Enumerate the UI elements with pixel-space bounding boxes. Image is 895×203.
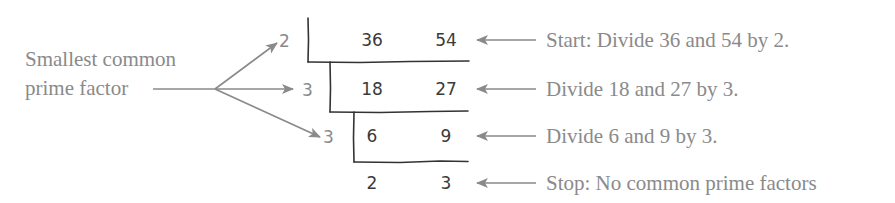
note-arrows [477,40,536,183]
row-2-b: 27 [435,79,457,99]
note-step-2: Divide 18 and 27 by 3. [546,77,738,101]
row-1-b: 54 [435,30,457,50]
smallest-common-prime-factor-label: Smallest common prime factor [25,47,177,100]
divisor-2: 3 [302,80,313,100]
row-4-a: 2 [367,173,378,193]
note-step-3: Divide 6 and 9 by 3. [546,124,717,148]
row-4-b: 3 [441,173,452,193]
row-2-a: 18 [361,79,383,99]
ladder-diagram: Smallest common prime factor 2 3 3 36 54… [0,0,895,203]
divisor-1: 2 [279,31,290,51]
divisor-3: 3 [323,127,334,147]
row-3-a: 6 [367,126,378,146]
step-notes: Start: Divide 36 and 54 by 2. Divide 18 … [546,28,817,195]
left-label-line1: Smallest common [25,47,177,71]
arrow-to-divisor-1-icon [215,43,277,89]
left-label-line2: prime factor [25,76,128,100]
note-stop: Stop: No common prime factors [546,171,817,195]
row-3-b: 9 [441,126,452,146]
fan-arrows [153,43,320,137]
row-1-a: 36 [361,30,383,50]
note-start: Start: Divide 36 and 54 by 2. [546,28,789,52]
